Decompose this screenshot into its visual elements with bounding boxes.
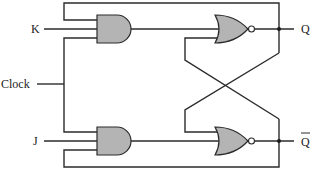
q-label: Q <box>301 22 310 36</box>
j-label: J <box>33 134 38 148</box>
lower-nor-inverter-bubble <box>249 138 255 144</box>
q-junction-dot <box>277 27 281 31</box>
lower-nor-gate <box>215 127 248 155</box>
clock-label: Clock <box>1 77 30 91</box>
feedback-wire-q-to-upper-and <box>64 3 279 29</box>
clock-bus-wire <box>64 38 97 132</box>
upper-nor-inverter-bubble <box>249 26 255 32</box>
k-label: K <box>31 22 40 36</box>
q-bar-label: Q <box>301 135 310 149</box>
upper-nor-gate <box>215 15 248 43</box>
jk-flip-flop-diagram: K Clock J Q Q <box>0 0 315 180</box>
cross-wire-lower-to-upper-nor <box>185 38 279 119</box>
lower-and-gate <box>97 127 131 155</box>
feedback-wire-qbar-to-lower-and <box>64 141 279 167</box>
upper-and-gate <box>97 15 131 43</box>
cross-wire-upper-to-lower-nor <box>185 53 279 132</box>
qbar-junction-dot <box>277 139 281 143</box>
